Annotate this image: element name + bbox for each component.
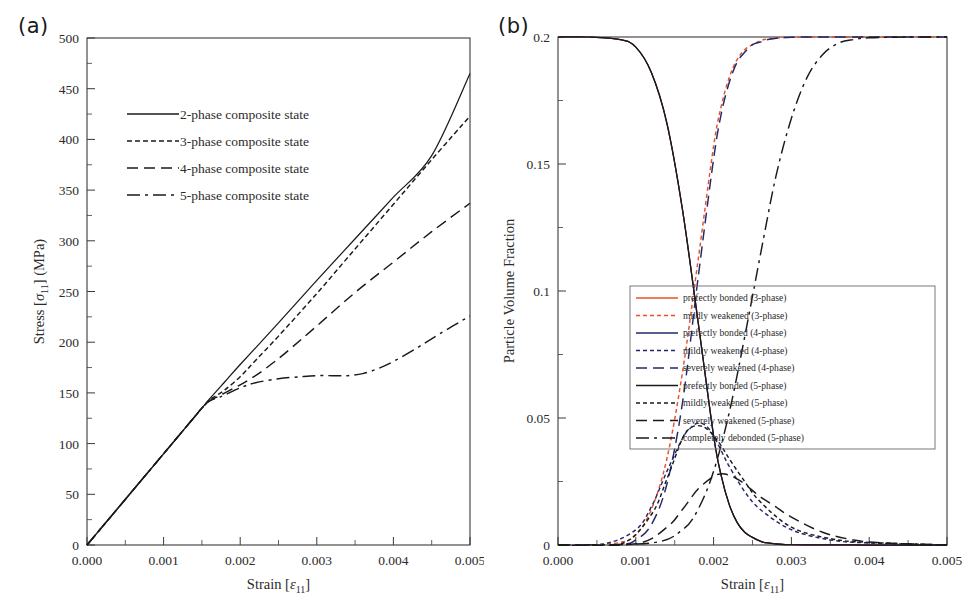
- panel-b-label: (b): [498, 14, 529, 38]
- x-tick-label: 0.002: [225, 553, 255, 568]
- series-curve: [87, 316, 470, 545]
- series-curve: [558, 37, 947, 545]
- legend-item: mildly weakened (5-phase): [636, 397, 787, 409]
- y-tick-label: 100: [59, 437, 80, 452]
- legend-label: 5-phase composite state: [180, 188, 309, 203]
- x-tick-label: 0.005: [455, 553, 484, 568]
- legend-item: 3-phase composite state: [127, 134, 309, 149]
- legend-item: prefectly bonded (4-phase): [636, 327, 786, 339]
- x-tick-label: 0.003: [302, 553, 333, 568]
- legend-label: mildly weakened (5-phase): [683, 397, 787, 409]
- legend-label: completely debonded (5-phase): [683, 432, 804, 444]
- volume-fraction-chart: 00.050.10.150.20.0000.0010.0020.0030.004…: [484, 0, 968, 605]
- legend-item: 4-phase composite state: [127, 161, 309, 176]
- y-tick-label: 0.15: [526, 157, 550, 172]
- panel-a: (a) 0501001502002503003504004505000.0000…: [0, 0, 484, 605]
- y-tick-label: 200: [59, 335, 80, 350]
- legend-label: mildly weakened (4-phase): [683, 345, 787, 357]
- series-curve: [558, 37, 947, 545]
- series-curve: [558, 426, 947, 547]
- legend-item: severely weakened (5-phase): [636, 415, 794, 427]
- legend-label: prefectly bonded (4-phase): [683, 327, 786, 339]
- panel-b: (b) 00.050.10.150.20.0000.0010.0020.0030…: [484, 0, 968, 605]
- x-tick-label: 0.000: [543, 553, 574, 568]
- y-tick-label: 0: [72, 538, 79, 553]
- series-curve: [558, 37, 947, 545]
- figure-container: (a) 0501001502002503003504004505000.0000…: [0, 0, 968, 605]
- series-curve: [558, 37, 947, 545]
- legend-label: prefectly bonded (5-phase): [683, 380, 786, 392]
- y-tick-label: 400: [59, 132, 80, 147]
- series-curve: [558, 37, 947, 545]
- y-axis-title: Particle Volume Fraction: [501, 218, 517, 363]
- y-tick-label: 350: [59, 183, 80, 198]
- legend: prefectly bonded (3-phase)mildly weakene…: [630, 286, 935, 449]
- legend-item: completely debonded (5-phase): [636, 432, 804, 444]
- x-tick-label: 0.005: [932, 553, 963, 568]
- legend-item: prefectly bonded (5-phase): [636, 380, 786, 392]
- legend-item: 5-phase composite state: [127, 188, 309, 203]
- x-tick-label: 0.002: [698, 553, 728, 568]
- legend-item: mildly weakened (3-phase): [636, 310, 787, 322]
- legend-item: mildly weakened (4-phase): [636, 345, 787, 357]
- legend: 2-phase composite state3-phase composite…: [127, 107, 309, 203]
- legend-label: 3-phase composite state: [180, 134, 309, 149]
- legend-label: mildly weakened (3-phase): [683, 310, 787, 322]
- x-tick-label: 0.001: [148, 553, 178, 568]
- y-tick-label: 50: [66, 487, 80, 502]
- x-tick-label: 0.004: [854, 553, 885, 568]
- y-tick-label: 500: [59, 31, 80, 46]
- y-tick-label: 0: [543, 538, 550, 553]
- series-curve: [87, 116, 470, 545]
- legend-label: 4-phase composite state: [180, 161, 309, 176]
- y-tick-label: 0.2: [533, 30, 550, 45]
- y-tick-label: 150: [59, 386, 80, 401]
- legend-label: severely weakened (4-phase): [683, 362, 794, 374]
- legend-item: 2-phase composite state: [127, 107, 309, 122]
- y-tick-label: 300: [59, 234, 80, 249]
- x-axis-title: Strain [ε11]: [247, 576, 310, 595]
- x-tick-label: 0.001: [621, 553, 651, 568]
- legend-label: severely weakened (5-phase): [683, 415, 794, 427]
- series-curve: [87, 203, 470, 545]
- x-tick-label: 0.000: [72, 553, 103, 568]
- y-axis-title: Stress [σ11] (MPa): [31, 239, 50, 345]
- y-tick-label: 0.1: [533, 284, 550, 299]
- series-curve: [558, 37, 947, 545]
- legend-label: 2-phase composite state: [180, 107, 309, 122]
- x-tick-label: 0.004: [378, 553, 409, 568]
- legend-label: prefectly bonded (3-phase): [683, 292, 786, 304]
- plot-frame: [558, 37, 947, 545]
- panel-a-label: (a): [18, 14, 49, 38]
- stress-strain-chart: 0501001502002503003504004505000.0000.001…: [0, 0, 484, 605]
- legend-item: severely weakened (4-phase): [636, 362, 794, 374]
- series-curve: [558, 474, 947, 546]
- x-axis-title: Strain [ε11]: [721, 576, 784, 595]
- legend-item: prefectly bonded (3-phase): [636, 292, 786, 304]
- x-tick-label: 0.003: [776, 553, 807, 568]
- y-tick-label: 450: [59, 82, 80, 97]
- y-tick-label: 250: [59, 285, 80, 300]
- y-tick-label: 0.05: [526, 411, 550, 426]
